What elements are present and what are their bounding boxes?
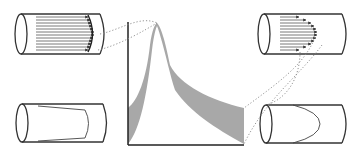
plug-flow-arrows-icon — [36, 17, 94, 50]
cylinder-bottom-right — [260, 105, 346, 143]
peak-band-chart — [128, 22, 244, 145]
parabolic-flow-arrows-icon — [280, 17, 317, 50]
cylinder-top-right — [258, 14, 346, 54]
cylinder-bottom-left — [16, 104, 107, 142]
shaded-band — [128, 23, 244, 144]
cylinder-top-left — [15, 14, 104, 54]
diagram-canvas — [0, 0, 358, 154]
